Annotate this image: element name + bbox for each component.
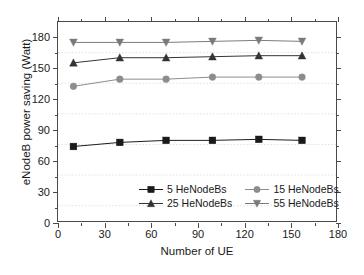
y-axis-minor-tick bbox=[55, 53, 58, 54]
y-axis-title: eNodeB power saving (Watt) bbox=[20, 7, 32, 217]
y-axis-tick bbox=[336, 37, 341, 38]
data-series bbox=[70, 37, 306, 46]
data-point-marker bbox=[116, 139, 123, 146]
data-point-marker bbox=[209, 74, 216, 81]
x-axis-minor-tick bbox=[268, 19, 269, 22]
y-axis-tick bbox=[336, 130, 341, 131]
series-line bbox=[73, 139, 302, 146]
data-series bbox=[70, 52, 306, 66]
y-axis-tick bbox=[53, 130, 58, 131]
data-series bbox=[70, 74, 305, 90]
y-axis-tick bbox=[53, 37, 58, 38]
data-point-marker bbox=[255, 136, 262, 143]
x-axis-minor-tick bbox=[175, 223, 176, 226]
data-point-marker bbox=[209, 137, 216, 144]
x-axis-tick bbox=[291, 17, 292, 22]
y-axis-tick bbox=[336, 99, 341, 100]
y-axis-tick-label: 30 bbox=[38, 186, 50, 198]
y-axis-minor-tick bbox=[336, 146, 339, 147]
y-axis-tick-label: 120 bbox=[32, 93, 50, 105]
legend-item: 25 HeNodeBs bbox=[139, 198, 232, 209]
series-line bbox=[73, 77, 302, 86]
y-axis-tick-label: 60 bbox=[38, 155, 50, 167]
y-axis-tick bbox=[53, 161, 58, 162]
legend-item: 5 HeNodeBs bbox=[139, 184, 232, 195]
data-series bbox=[70, 136, 305, 150]
series-line bbox=[73, 40, 302, 42]
y-axis-tick bbox=[336, 68, 341, 69]
y-axis-minor-tick bbox=[336, 177, 339, 178]
legend-marker-square-icon bbox=[139, 184, 163, 195]
x-axis-tick-label: 90 bbox=[192, 228, 204, 240]
x-axis-minor-tick bbox=[221, 223, 222, 226]
data-point-marker bbox=[163, 137, 170, 144]
data-point-marker bbox=[255, 74, 262, 81]
y-axis-tick bbox=[53, 99, 58, 100]
y-axis-minor-tick bbox=[55, 115, 58, 116]
y-axis-tick-label: 180 bbox=[32, 31, 50, 43]
chart-figure: eNodeB power saving (Watt) 0306090120150… bbox=[0, 0, 364, 275]
x-axis-minor-tick bbox=[268, 223, 269, 226]
x-axis-minor-tick bbox=[128, 223, 129, 226]
data-point-marker bbox=[70, 143, 77, 150]
y-axis-tick bbox=[336, 161, 341, 162]
x-axis-tick-label: 0 bbox=[55, 228, 61, 240]
data-point-marker bbox=[299, 137, 306, 144]
x-axis-tick bbox=[338, 17, 339, 22]
y-axis-minor-tick bbox=[55, 146, 58, 147]
legend-item: 15 HeNodeBs bbox=[245, 184, 338, 195]
legend-marker-triangle-up-icon bbox=[139, 198, 163, 209]
y-axis-minor-tick bbox=[55, 84, 58, 85]
x-axis-tick-label: 30 bbox=[99, 228, 111, 240]
x-axis-minor-tick bbox=[128, 19, 129, 22]
data-point-marker bbox=[163, 76, 170, 83]
x-axis-tick bbox=[245, 17, 246, 22]
x-axis-tick-label: 60 bbox=[145, 228, 157, 240]
legend-marker-circle-icon bbox=[245, 184, 269, 195]
x-axis-minor-tick bbox=[315, 223, 316, 226]
y-axis-minor-tick bbox=[336, 84, 339, 85]
y-axis-tick-label: 90 bbox=[38, 124, 50, 136]
x-axis-minor-tick bbox=[175, 19, 176, 22]
data-point-marker bbox=[299, 74, 306, 81]
legend-item: 55 HeNodeBs bbox=[245, 198, 338, 209]
series-line bbox=[73, 56, 302, 63]
y-axis-tick bbox=[53, 68, 58, 69]
x-axis-tick bbox=[105, 17, 106, 22]
x-axis-title: Number of UE bbox=[57, 245, 337, 257]
y-axis-tick bbox=[53, 192, 58, 193]
x-axis-tick bbox=[151, 17, 152, 22]
x-axis-minor-tick bbox=[81, 19, 82, 22]
y-axis-minor-tick bbox=[336, 115, 339, 116]
x-axis-tick-label: 150 bbox=[282, 228, 300, 240]
x-axis-tick-label: 180 bbox=[329, 228, 347, 240]
x-axis-minor-tick bbox=[221, 19, 222, 22]
x-axis-tick bbox=[58, 17, 59, 22]
y-axis-tick-label: 150 bbox=[32, 62, 50, 74]
legend-label: 5 HeNodeBs bbox=[167, 184, 227, 195]
y-axis-minor-tick bbox=[336, 53, 339, 54]
data-point-marker bbox=[70, 83, 77, 90]
y-axis-tick-label: 0 bbox=[44, 217, 50, 229]
legend-marker-triangle-down-icon bbox=[245, 198, 269, 209]
data-point-marker bbox=[116, 76, 123, 83]
legend-label: 15 HeNodeBs bbox=[273, 184, 338, 195]
y-axis-minor-tick bbox=[55, 177, 58, 178]
x-axis-tick-label: 120 bbox=[235, 228, 253, 240]
chart-legend: 5 HeNodeBs15 HeNodeBs25 HeNodeBs55 HeNod… bbox=[139, 184, 339, 209]
x-axis-tick bbox=[198, 17, 199, 22]
x-axis-minor-tick bbox=[315, 19, 316, 22]
legend-label: 55 HeNodeBs bbox=[273, 198, 338, 209]
legend-label: 25 HeNodeBs bbox=[167, 198, 232, 209]
x-axis-minor-tick bbox=[81, 223, 82, 226]
y-axis-minor-tick bbox=[55, 208, 58, 209]
